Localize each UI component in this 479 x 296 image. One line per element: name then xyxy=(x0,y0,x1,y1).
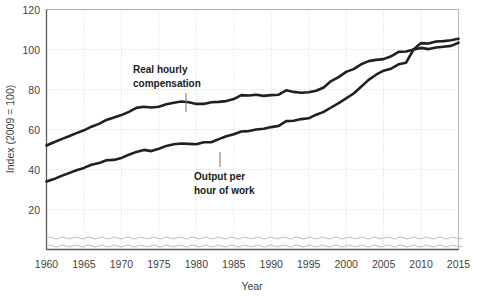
x-tick-label: 1990 xyxy=(260,258,284,270)
annotation-label-line2: hour of work xyxy=(194,185,255,196)
annotation-label-line1: Output per xyxy=(194,171,245,182)
line-chart: 12010080604020 1960196519701975198019851… xyxy=(0,0,479,296)
x-tick-label: 2000 xyxy=(334,258,358,270)
x-tick-label: 1980 xyxy=(185,258,209,270)
x-tick-label: 2010 xyxy=(409,258,433,270)
y-tick-label: 120 xyxy=(22,4,40,16)
y-tick-label: 100 xyxy=(22,44,40,56)
x-tick-label: 1970 xyxy=(110,258,134,270)
annotation-label-line2: compensation xyxy=(133,78,201,89)
x-tick-label: 2005 xyxy=(372,258,396,270)
chart-background xyxy=(0,0,479,296)
y-axis-title: Index (2009 = 100) xyxy=(4,85,16,173)
y-tick-label: 40 xyxy=(28,164,40,176)
x-tick-label: 1960 xyxy=(35,258,59,270)
y-tick-label: 80 xyxy=(28,84,40,96)
y-tick-label: 20 xyxy=(28,204,40,216)
y-tick-label: 60 xyxy=(28,124,40,136)
x-tick-label: 1995 xyxy=(297,258,321,270)
x-tick-label: 1965 xyxy=(72,258,96,270)
x-tick-label: 1975 xyxy=(147,258,171,270)
chart-canvas: 12010080604020 1960196519701975198019851… xyxy=(0,0,479,296)
annotation-label-line1: Real hourly xyxy=(133,64,188,75)
x-tick-label: 1985 xyxy=(222,258,246,270)
x-axis-title: Year xyxy=(241,280,263,292)
x-tick-label: 2015 xyxy=(447,258,471,270)
